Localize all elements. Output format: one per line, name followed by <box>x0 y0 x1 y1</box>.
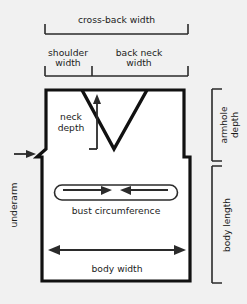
garment-measurement-diagram: cross-back width shoulder width back nec… <box>0 0 247 304</box>
cross-back-width-label: cross-back width <box>78 14 155 25</box>
body-width-label: body width <box>92 263 143 274</box>
neck-depth-label-line1: neck <box>60 111 83 122</box>
back-neck-width-label-line2: width <box>126 57 152 68</box>
bust-circumference-label: bust circumference <box>72 205 161 216</box>
body-length-label: body length <box>222 198 232 252</box>
armhole-depth-label-line1: armhole <box>219 106 229 144</box>
neck-depth-label-line2: depth <box>58 122 85 133</box>
shoulder-width-label-line2: width <box>55 57 81 68</box>
diagram-canvas: cross-back width shoulder width back nec… <box>0 0 247 304</box>
armhole-depth-label-line2: depth <box>230 112 240 138</box>
underarm-label: underarm <box>8 182 19 227</box>
